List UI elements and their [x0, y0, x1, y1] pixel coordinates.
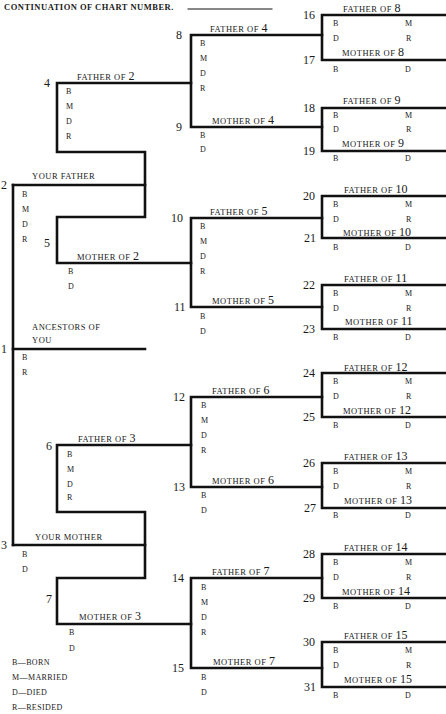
person-18-field-married[interactable]: M	[405, 112, 412, 120]
person-28-field-born[interactable]: B	[333, 559, 338, 567]
person-11-field-born[interactable]: B	[200, 313, 205, 321]
person-21-field-born[interactable]: B	[333, 244, 338, 252]
person-19-field-born[interactable]: B	[333, 155, 338, 163]
person-30-field-died[interactable]: D	[333, 662, 339, 670]
person-25-field-died[interactable]: D	[405, 422, 411, 430]
person-6-field-married[interactable]: M	[67, 466, 74, 474]
person-4-field-married[interactable]: M	[66, 103, 73, 111]
person-26-field-died[interactable]: D	[333, 483, 339, 491]
person-20-field-died[interactable]: D	[333, 216, 339, 224]
person-2-field-died[interactable]: D	[22, 221, 28, 229]
person-28-field-resided[interactable]: R	[406, 574, 411, 582]
person-22-field-born[interactable]: B	[333, 290, 338, 298]
person-24-field-married[interactable]: M	[405, 378, 412, 386]
person-13-field-died[interactable]: D	[201, 507, 207, 515]
person-6-field-resided[interactable]: R	[67, 494, 72, 502]
person-4-field-resided[interactable]: R	[66, 133, 71, 141]
person-16-field-married[interactable]: M	[405, 20, 412, 28]
person-1-label: ANCESTORS OF	[32, 323, 100, 332]
person-2-field-married[interactable]: M	[22, 206, 29, 214]
person-8-field-died[interactable]: D	[200, 70, 206, 78]
person-2-field-resided[interactable]: R	[22, 236, 27, 244]
person-3-field-born[interactable]: B	[22, 551, 27, 559]
person-23-number: 23	[303, 323, 315, 335]
person-27-field-born[interactable]: B	[333, 512, 338, 520]
person-21-field-died[interactable]: D	[405, 244, 411, 252]
person-8-field-married[interactable]: M	[200, 55, 207, 63]
person-10-field-married[interactable]: M	[200, 238, 207, 246]
person-12-field-resided[interactable]: R	[201, 447, 206, 455]
person-22-field-resided[interactable]: R	[406, 305, 411, 313]
person-20-field-resided[interactable]: R	[406, 216, 411, 224]
person-30-field-resided[interactable]: R	[406, 662, 411, 670]
person-14-field-died[interactable]: D	[201, 614, 207, 622]
person-16-field-born[interactable]: B	[333, 20, 338, 28]
person-24-field-resided[interactable]: R	[406, 393, 411, 401]
legend-born: B—BORN	[12, 659, 50, 667]
person-9-field-died[interactable]: D	[200, 146, 206, 154]
person-12-field-married[interactable]: M	[201, 417, 208, 425]
person-14-field-resided[interactable]: R	[201, 629, 206, 637]
person-5-field-died[interactable]: D	[68, 283, 74, 291]
person-14-field-married[interactable]: M	[201, 599, 208, 607]
person-3-field-died[interactable]: D	[22, 566, 28, 574]
person-22-field-died[interactable]: D	[333, 305, 339, 313]
person-7-field-died[interactable]: D	[69, 645, 75, 653]
person-8-field-resided[interactable]: R	[200, 85, 205, 93]
person-30-field-married[interactable]: M	[405, 647, 412, 655]
person-16-field-resided[interactable]: R	[406, 35, 411, 43]
person-30-field-born[interactable]: B	[333, 647, 338, 655]
person-13-field-born[interactable]: B	[201, 492, 206, 500]
person-23-field-born[interactable]: B	[333, 334, 338, 342]
person-4-field-died[interactable]: D	[66, 118, 72, 126]
person-29-field-born[interactable]: B	[333, 603, 338, 611]
person-23-field-died[interactable]: D	[405, 334, 411, 342]
person-14-field-born[interactable]: B	[201, 584, 206, 592]
person-10-field-resided[interactable]: R	[200, 268, 205, 276]
person-1-field-born[interactable]: B	[22, 354, 27, 362]
person-8-number: 8	[176, 29, 182, 41]
person-4-field-born[interactable]: B	[66, 88, 71, 96]
person-29-field-died[interactable]: D	[405, 603, 411, 611]
person-15-field-died[interactable]: D	[201, 689, 207, 697]
person-25-field-born[interactable]: B	[333, 422, 338, 430]
person-16-field-died[interactable]: D	[333, 35, 339, 43]
person-27-field-died[interactable]: D	[405, 512, 411, 520]
person-2-field-born[interactable]: B	[22, 191, 27, 199]
person-17-field-born[interactable]: B	[333, 66, 338, 74]
person-24-field-died[interactable]: D	[333, 393, 339, 401]
person-22-field-married[interactable]: M	[405, 290, 412, 298]
person-18-field-died[interactable]: D	[333, 126, 339, 134]
person-18-number: 18	[303, 102, 315, 114]
person-1-field-resided[interactable]: R	[22, 369, 27, 377]
person-26-field-married[interactable]: M	[405, 468, 412, 476]
person-22-number: 22	[303, 279, 315, 291]
person-12-field-died[interactable]: D	[201, 432, 207, 440]
person-18-field-resided[interactable]: R	[406, 126, 411, 134]
person-17-field-died[interactable]: D	[405, 66, 411, 74]
person-26-field-resided[interactable]: R	[406, 483, 411, 491]
person-10-field-born[interactable]: B	[200, 223, 205, 231]
person-6-field-born[interactable]: B	[67, 451, 72, 459]
person-5-field-born[interactable]: B	[68, 268, 73, 276]
person-28-field-married[interactable]: M	[405, 559, 412, 567]
person-15-field-born[interactable]: B	[201, 674, 206, 682]
person-8-field-born[interactable]: B	[200, 40, 205, 48]
person-7-field-born[interactable]: B	[69, 629, 74, 637]
person-31-field-died[interactable]: D	[405, 692, 411, 700]
chart-number-field[interactable]	[188, 0, 272, 9]
person-12-field-born[interactable]: B	[201, 402, 206, 410]
person-6-field-died[interactable]: D	[67, 481, 73, 489]
person-20-field-married[interactable]: M	[405, 201, 412, 209]
person-26-field-born[interactable]: B	[333, 468, 338, 476]
person-24-field-born[interactable]: B	[333, 378, 338, 386]
person-8-label: FATHER OF 4	[210, 22, 268, 34]
person-31-field-born[interactable]: B	[333, 692, 338, 700]
person-10-field-died[interactable]: D	[200, 253, 206, 261]
person-18-field-born[interactable]: B	[333, 112, 338, 120]
person-20-field-born[interactable]: B	[333, 201, 338, 209]
person-9-field-born[interactable]: B	[200, 132, 205, 140]
person-28-field-died[interactable]: D	[333, 574, 339, 582]
person-19-field-died[interactable]: D	[405, 155, 411, 163]
person-11-field-died[interactable]: D	[200, 328, 206, 336]
